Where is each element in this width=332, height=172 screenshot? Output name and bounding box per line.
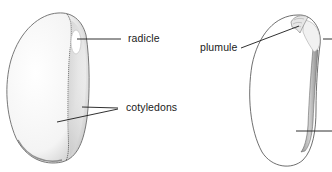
label-cotyledons: cotyledons xyxy=(126,102,177,113)
seed-illustrations xyxy=(0,0,332,172)
left-seed xyxy=(7,13,89,163)
label-plumule: plumule xyxy=(200,42,237,53)
left-radicle-shape xyxy=(71,30,81,54)
seed-diagram: radicle cotyledons plumule xyxy=(0,0,332,172)
label-radicle: radicle xyxy=(128,33,160,44)
right-seed xyxy=(250,15,321,166)
